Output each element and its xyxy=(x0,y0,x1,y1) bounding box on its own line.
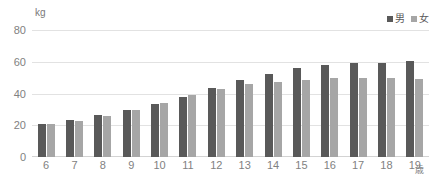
bar-male[interactable] xyxy=(38,124,46,157)
x-tick-label: 17 xyxy=(344,160,372,180)
legend-swatch-male xyxy=(387,16,393,22)
x-tick-label: 7 xyxy=(60,160,88,180)
bar-group xyxy=(174,30,202,157)
chart-legend: 男 女 xyxy=(387,14,429,24)
plot-area xyxy=(32,30,429,157)
legend-label-male: 男 xyxy=(395,14,405,24)
y-tick-label: 40 xyxy=(0,88,26,99)
bar-female[interactable] xyxy=(330,78,338,157)
bar-group xyxy=(287,30,315,157)
bar-female[interactable] xyxy=(132,110,140,157)
bar-female[interactable] xyxy=(302,80,310,157)
bar-groups xyxy=(32,30,429,157)
y-axis-unit-label: kg xyxy=(35,8,46,18)
bar-female[interactable] xyxy=(274,82,282,157)
x-tick-label: 6 xyxy=(32,160,60,180)
bar-female[interactable] xyxy=(160,103,168,157)
legend-entry-male[interactable]: 男 xyxy=(387,14,405,24)
bar-male[interactable] xyxy=(66,120,74,157)
bar-group xyxy=(32,30,60,157)
bar-group xyxy=(117,30,145,157)
bar-female[interactable] xyxy=(75,121,83,158)
bar-male[interactable] xyxy=(321,65,329,157)
bar-group xyxy=(89,30,117,157)
bar-female[interactable] xyxy=(415,79,423,157)
bar-group xyxy=(316,30,344,157)
bar-female[interactable] xyxy=(359,78,367,157)
bar-male[interactable] xyxy=(179,97,187,157)
bar-male[interactable] xyxy=(151,104,159,157)
y-tick-label: 20 xyxy=(0,120,26,131)
bar-group xyxy=(344,30,372,157)
bar-male[interactable] xyxy=(406,61,414,157)
bar-male[interactable] xyxy=(94,115,102,157)
bar-chart: kg 男 女 020406080 67891011121314151617181… xyxy=(0,0,435,192)
y-tick-label: 80 xyxy=(0,25,26,36)
bar-male[interactable] xyxy=(378,63,386,157)
bar-group xyxy=(145,30,173,157)
y-tick-label: 60 xyxy=(0,56,26,67)
bar-male[interactable] xyxy=(265,74,273,157)
x-tick-label: 13 xyxy=(231,160,259,180)
x-tick-label: 15 xyxy=(287,160,315,180)
bar-group xyxy=(401,30,429,157)
bar-male[interactable] xyxy=(293,68,301,157)
legend-swatch-female xyxy=(411,16,417,22)
bar-group xyxy=(372,30,400,157)
bar-male[interactable] xyxy=(236,80,244,157)
x-tick-label: 18 xyxy=(372,160,400,180)
x-axis-unit-label: 歳 xyxy=(415,166,424,175)
bar-male[interactable] xyxy=(208,88,216,157)
bar-male[interactable] xyxy=(350,63,358,157)
bar-group xyxy=(60,30,88,157)
bar-group xyxy=(259,30,287,157)
bar-female[interactable] xyxy=(188,95,196,157)
bar-male[interactable] xyxy=(123,110,131,157)
legend-entry-female[interactable]: 女 xyxy=(411,14,429,24)
legend-label-female: 女 xyxy=(419,14,429,24)
bar-group xyxy=(231,30,259,157)
x-axis-tick-labels: 678910111213141516171819 xyxy=(32,160,429,180)
bar-female[interactable] xyxy=(47,124,55,157)
x-tick-label: 10 xyxy=(145,160,173,180)
x-tick-label: 14 xyxy=(259,160,287,180)
x-tick-label: 11 xyxy=(174,160,202,180)
bar-group xyxy=(202,30,230,157)
x-tick-label: 12 xyxy=(202,160,230,180)
bar-female[interactable] xyxy=(103,116,111,157)
bar-female[interactable] xyxy=(387,78,395,157)
y-tick-label: 0 xyxy=(0,152,26,163)
y-axis-tick-labels: 020406080 xyxy=(0,30,26,157)
x-tick-label: 16 xyxy=(316,160,344,180)
x-tick-label: 8 xyxy=(89,160,117,180)
bar-female[interactable] xyxy=(245,84,253,157)
bar-female[interactable] xyxy=(217,89,225,157)
x-tick-label: 9 xyxy=(117,160,145,180)
